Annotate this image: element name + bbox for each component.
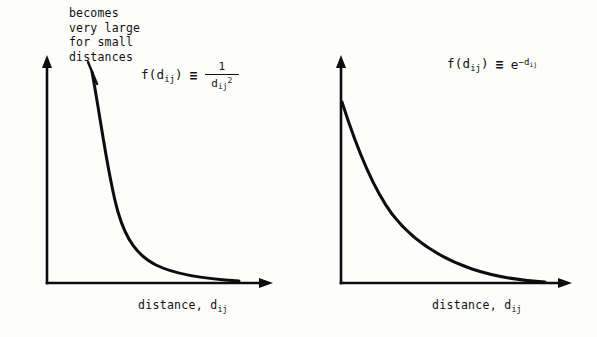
left-formula-denominator-subscript: ij <box>218 82 228 91</box>
right-y-axis-arrowhead <box>336 55 346 68</box>
right-formula-rhs-exponent-text: −d <box>519 57 530 67</box>
right-formula-lhs-subscript: ij <box>470 63 481 73</box>
left-formula-lhs-paren: ) <box>175 67 183 82</box>
left-x-axis-label: distance, dij <box>138 298 227 314</box>
right-formula-lhs: f(dij) <box>447 56 489 73</box>
left-formula-denominator-exponent: 2 <box>228 76 233 85</box>
figure-canvas: becomes very large for small distances f… <box>0 0 597 337</box>
left-formula-fraction: 1 dij2 <box>205 61 239 92</box>
left-x-axis-label-subscript: ij <box>217 304 227 314</box>
left-curve-inverse-square <box>92 72 239 281</box>
left-formula-identity-symbol: ≡ <box>189 68 199 83</box>
right-x-axis-label: distance, dij <box>432 298 521 314</box>
right-panel-axes <box>336 55 572 288</box>
right-formula-rhs-exponent: −dij <box>519 57 538 67</box>
left-formula-numerator: 1 <box>212 61 231 74</box>
right-x-axis-label-text: distance, d <box>432 298 511 312</box>
left-formula-denominator: dij2 <box>207 75 236 91</box>
left-x-axis-arrowhead <box>259 278 273 288</box>
left-formula-lhs: f(dij) <box>141 67 183 84</box>
left-formula-lhs-text: f(d <box>141 67 164 82</box>
left-formula-lhs-subscript: ij <box>164 74 175 84</box>
right-formula-identity-symbol: ≡ <box>495 57 505 72</box>
left-annotation-text: becomes very large for small distances <box>69 6 140 64</box>
right-formula-rhs-exponent-subscript: ij <box>529 61 537 69</box>
right-formula-lhs-text: f(d <box>447 56 470 71</box>
right-x-axis-label-subscript: ij <box>511 304 521 314</box>
right-x-axis-arrowhead <box>558 278 572 288</box>
left-y-axis-arrowhead <box>42 55 52 68</box>
right-formula: f(dij) ≡ e−dij <box>447 56 537 73</box>
right-curve-exponential <box>342 102 545 282</box>
right-formula-lhs-paren: ) <box>481 56 489 71</box>
left-formula: f(dij) ≡ 1 dij2 <box>141 60 239 91</box>
right-formula-rhs-base: e <box>511 57 519 72</box>
left-x-axis-label-text: distance, d <box>138 298 217 312</box>
right-formula-rhs: e−dij <box>511 57 537 72</box>
